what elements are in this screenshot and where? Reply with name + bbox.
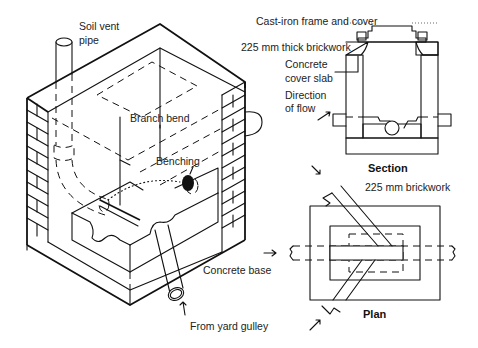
gulley-arrow xyxy=(180,302,186,315)
outlet-pipe xyxy=(245,112,262,136)
label-from-yard-gulley: From yard gulley xyxy=(190,320,269,332)
section-right-wall xyxy=(421,55,438,138)
inspection-chamber-diagram: Soil vent pipe Branch bend Benching From… xyxy=(0,0,478,348)
branch-inlet-dark xyxy=(182,175,194,191)
label-direction-of-flow: Direction xyxy=(285,89,327,101)
section-left-wall xyxy=(346,55,363,138)
yard-gulley-pipe xyxy=(155,225,186,303)
cast-iron-frame xyxy=(358,26,426,42)
section-channel xyxy=(385,121,399,135)
label-concrete-base: Concrete base xyxy=(203,264,271,276)
label-branch-bend: Branch bend xyxy=(130,112,190,124)
plan-title: Plan xyxy=(363,308,387,320)
label-brickwork-thick: 225 mm thick brickwork xyxy=(241,41,351,53)
label-brickwork: 225 mm brickwork xyxy=(365,181,451,193)
benching-block xyxy=(72,168,218,272)
benching-pointer xyxy=(190,167,193,174)
label-concrete-cover-slab-2: cover slab xyxy=(285,72,333,84)
cover-opening-hidden xyxy=(97,62,197,117)
section-base xyxy=(346,138,438,154)
label-benching: Benching xyxy=(156,155,200,167)
label-soil-vent-pipe: Soil vent xyxy=(79,20,119,32)
label-cast-iron-frame: Cast-iron frame and cover xyxy=(256,15,378,27)
right-brick-wall xyxy=(222,82,245,252)
flow-arrow xyxy=(318,112,330,120)
label-direction-of-flow-2: of flow xyxy=(285,102,316,114)
label-concrete-cover-slab: Concrete xyxy=(285,58,328,70)
soil-vent-pipe xyxy=(54,38,110,215)
left-brick-wall xyxy=(27,98,48,245)
concrete-cover-slab xyxy=(346,42,438,55)
label-soil-vent-pipe-2: pipe xyxy=(79,34,99,46)
section-title: Section xyxy=(368,162,408,174)
